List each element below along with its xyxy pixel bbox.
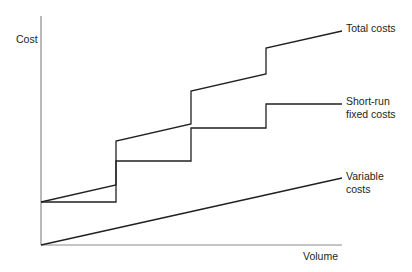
fixed-costs-label-line1: Short-run [346, 95, 390, 108]
total-costs-label: Total costs [346, 22, 396, 35]
x-axis-label: Volume [303, 250, 338, 263]
variable-costs-label-line2: costs [346, 183, 371, 196]
variable-costs-line [41, 178, 342, 245]
total-costs-line [41, 31, 342, 202]
variable-costs-label-line1: Variable [346, 170, 384, 183]
y-axis-label: Cost [16, 33, 38, 46]
fixed-costs-label-line2: fixed costs [346, 108, 396, 121]
cost-chart [0, 0, 412, 272]
